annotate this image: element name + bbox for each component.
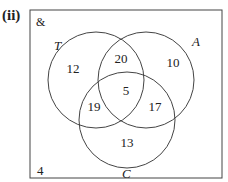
region-t-only: 12 xyxy=(67,61,80,76)
region-c-only: 13 xyxy=(121,135,134,150)
region-a-c: 17 xyxy=(149,99,163,114)
set-label-a: A xyxy=(191,34,200,49)
set-label-t: T xyxy=(54,38,62,53)
region-t-c: 19 xyxy=(88,99,101,114)
circle-a xyxy=(98,32,194,128)
part-label: (ii) xyxy=(2,7,20,24)
venn-diagram: (ii) & T A C 12 20 10 5 19 17 13 4 xyxy=(0,0,228,182)
region-all-three: 5 xyxy=(123,83,130,98)
set-label-c: C xyxy=(122,166,131,181)
region-outside: 4 xyxy=(37,163,44,178)
universal-set-symbol: & xyxy=(36,15,46,29)
region-t-a: 20 xyxy=(115,51,128,66)
region-a-only: 10 xyxy=(167,55,180,70)
